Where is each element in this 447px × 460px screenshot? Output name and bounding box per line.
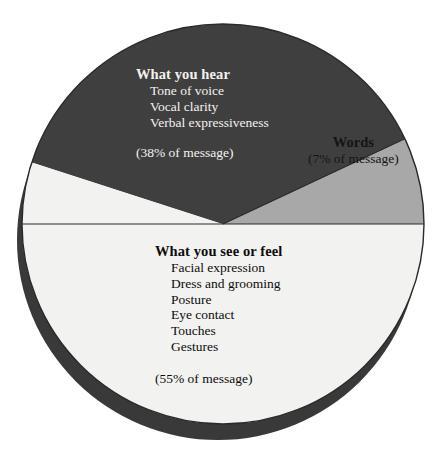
slice-item-touches: Touches bbox=[155, 323, 282, 339]
slice-label-what-you-see-or-feel: What you see or feel Facial expression D… bbox=[155, 243, 282, 386]
slice-percent-words: (7% of message) bbox=[308, 151, 399, 167]
slice-label-words: Words (7% of message) bbox=[308, 134, 399, 167]
slice-item-verbal-expressiveness: Verbal expressiveness bbox=[136, 115, 269, 131]
slice-label-what-you-hear: What you hear Tone of voice Vocal clarit… bbox=[136, 66, 269, 161]
slice-item-vocal-clarity: Vocal clarity bbox=[136, 99, 269, 115]
slice-item-eye-contact: Eye contact bbox=[155, 307, 282, 323]
slice-item-facial-expression: Facial expression bbox=[155, 260, 282, 276]
slice-percent-what-you-see-or-feel: (55% of message) bbox=[155, 355, 282, 387]
slice-heading-words: Words bbox=[308, 134, 399, 151]
slice-percent-what-you-hear: (38% of message) bbox=[136, 130, 269, 161]
pie-chart-figure: What you hear Tone of voice Vocal clarit… bbox=[0, 0, 447, 460]
slice-item-dress-and-grooming: Dress and grooming bbox=[155, 276, 282, 292]
slice-heading-what-you-see-or-feel: What you see or feel bbox=[155, 243, 282, 260]
slice-heading-what-you-hear: What you hear bbox=[136, 66, 269, 83]
slice-item-gestures: Gestures bbox=[155, 339, 282, 355]
slice-item-tone-of-voice: Tone of voice bbox=[136, 83, 269, 99]
slice-item-posture: Posture bbox=[155, 292, 282, 308]
